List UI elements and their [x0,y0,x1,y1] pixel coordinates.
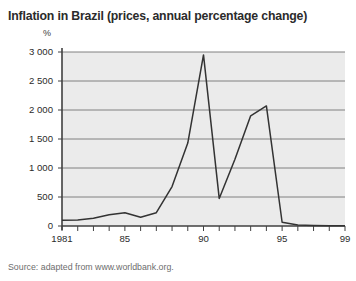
x-axis-tick-label: 90 [184,233,224,244]
chart-figure: Inflation in Brazil (prices, annual perc… [0,0,356,281]
y-axis-tick-label: 2 000 [3,104,53,115]
y-axis-tick-label: 500 [3,191,53,202]
x-axis-tick-label: 1981 [42,233,82,244]
y-axis-tick-label: 1 000 [3,162,53,173]
x-axis-tick-label: 85 [105,233,145,244]
x-axis-tick-label: 95 [262,233,302,244]
y-axis-tick-label: 0 [3,220,53,231]
y-axis-tick-label: 1 500 [3,133,53,144]
x-axis-tick-label: 99 [325,233,356,244]
y-axis-tick-label: 3 000 [3,46,53,57]
source-note: Source: adapted from www.worldbank.org. [8,262,174,272]
y-axis-tick-label: 2 500 [3,75,53,86]
